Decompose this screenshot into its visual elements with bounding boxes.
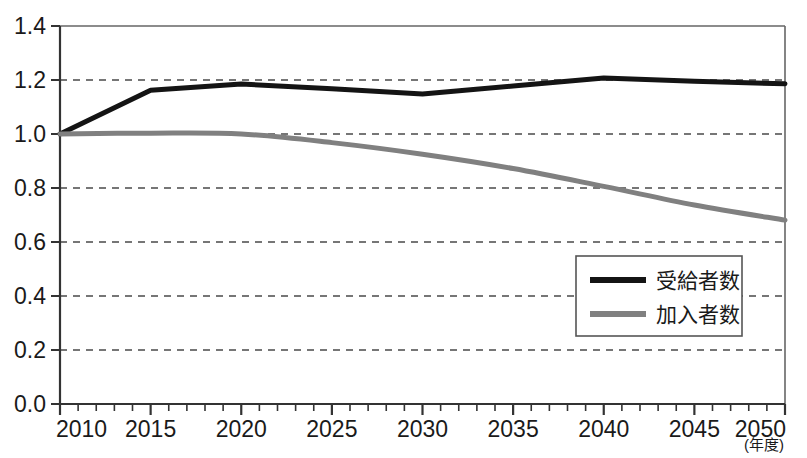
- x-tick-label-2030: 2030: [397, 416, 448, 442]
- x-tick-label-2015: 2015: [125, 416, 176, 442]
- y-tick-label-0.8: 0.8: [14, 175, 46, 201]
- y-axis-tick-labels: 1.4 1.2 1.0 0.8 0.6 0.4 0.2 0.0: [14, 13, 46, 417]
- x-axis-unit-label: (年度): [744, 436, 784, 453]
- y-tick-label-1.4: 1.4: [14, 13, 46, 39]
- y-tick-label-1.0: 1.0: [14, 121, 46, 147]
- y-tick-label-0.0: 0.0: [14, 391, 46, 417]
- legend: 受給者数 加入者数: [576, 256, 742, 336]
- x-tick-label-2025: 2025: [306, 416, 357, 442]
- legend-label-1: 加入者数: [656, 303, 740, 327]
- x-tick-label-2035: 2035: [488, 416, 539, 442]
- x-tick-label-2040: 2040: [578, 416, 629, 442]
- y-tick-label-0.6: 0.6: [14, 229, 46, 255]
- y-tick-label-0.4: 0.4: [14, 283, 46, 309]
- line-chart: 1.4 1.2 1.0 0.8 0.6 0.4 0.2 0.0 20102015…: [0, 0, 807, 458]
- x-tick-label-2045: 2045: [669, 416, 720, 442]
- x-axis-ticks: [60, 404, 785, 415]
- y-tick-label-0.2: 0.2: [14, 337, 46, 363]
- x-tick-label-2020: 2020: [216, 416, 267, 442]
- x-tick-label-2010: 2010: [56, 416, 107, 442]
- y-tick-label-1.2: 1.2: [14, 67, 46, 93]
- x-axis-tick-labels: 201020152020202520302035204020452050: [56, 416, 786, 442]
- y-axis-ticks: [51, 26, 60, 404]
- chart-container: 1.4 1.2 1.0 0.8 0.6 0.4 0.2 0.0 20102015…: [0, 0, 807, 458]
- legend-label-0: 受給者数: [656, 269, 740, 293]
